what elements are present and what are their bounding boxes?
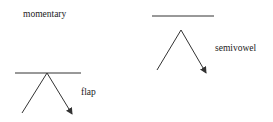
semivowel-diagram: [152, 16, 214, 73]
flap-diagram: [15, 73, 81, 114]
semivowel-rise-line: [157, 30, 181, 70]
semivowel-arrow: [181, 30, 206, 73]
flap-arrow: [47, 73, 72, 114]
flap-rise-line: [22, 73, 47, 113]
diagram-canvas: [0, 0, 273, 122]
